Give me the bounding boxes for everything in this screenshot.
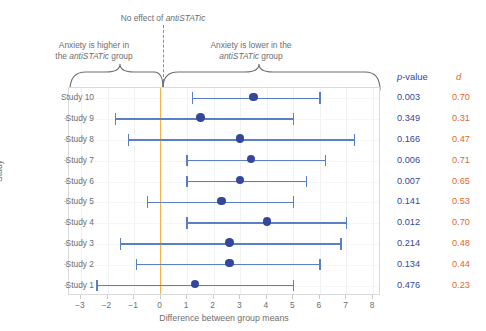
p-value-cell: 0.166 (397, 133, 441, 145)
effect-size-cell: 0.47 (452, 133, 484, 145)
y-tick-mark (64, 181, 68, 182)
x-tick-mark (160, 295, 161, 299)
confidence-interval-cap-high (293, 113, 294, 125)
forest-row (69, 130, 379, 150)
x-tick-mark (213, 295, 214, 299)
forest-row (69, 88, 379, 108)
confidence-interval-line (187, 160, 325, 161)
x-tick-mark (133, 295, 134, 299)
x-tick-mark (292, 295, 293, 299)
y-tick-mark (64, 222, 68, 223)
y-tick-mark (64, 285, 68, 286)
confidence-interval-cap-low (128, 134, 129, 146)
confidence-interval-cap-low (186, 176, 187, 188)
x-tick-mark (345, 295, 346, 299)
confidence-interval-line (187, 181, 306, 182)
x-tick-label: 6 (309, 300, 329, 310)
estimate-point (263, 217, 271, 225)
x-axis-label: Difference between group means (68, 313, 380, 323)
forest-row (69, 276, 379, 294)
effect-size-cell: 0.44 (452, 258, 484, 270)
column-header-d: d (456, 71, 482, 82)
x-tick-mark (107, 295, 108, 299)
confidence-interval-cap-high (306, 176, 307, 188)
x-tick-label: 8 (362, 300, 382, 310)
forest-row (69, 109, 379, 129)
estimate-point (247, 155, 255, 163)
p-value-cell: 0.006 (397, 154, 441, 166)
y-tick-mark (64, 118, 68, 119)
y-tick-label: Study 6 (66, 176, 94, 186)
forest-plot-figure: No effect of antiSTATic Anxiety is highe… (0, 0, 486, 331)
estimate-point (236, 134, 244, 142)
y-tick-mark (64, 201, 68, 202)
effect-size-cell: 0.70 (452, 216, 484, 228)
y-axis-label: Study (0, 160, 4, 182)
y-tick-label: Study 1 (66, 280, 94, 290)
forest-row (69, 255, 379, 275)
y-tick-label: Study 9 (66, 113, 94, 123)
forest-row (69, 172, 379, 192)
y-tick-mark (64, 97, 68, 98)
forest-row (69, 213, 379, 233)
confidence-interval-cap-low (120, 238, 121, 250)
x-tick-label: 2 (203, 300, 223, 310)
p-value-cell: 0.214 (397, 237, 441, 249)
confidence-interval-cap-low (192, 92, 193, 104)
confidence-interval-cap-high (325, 155, 326, 167)
x-tick-label: −3 (70, 300, 90, 310)
estimate-point (217, 197, 225, 205)
x-tick-label: −1 (123, 300, 143, 310)
p-value-cell: 0.476 (397, 279, 441, 291)
annotation-higher-line1: Anxiety is higher in (59, 40, 129, 50)
annotation-no-effect: No effect of antiSTATic (95, 13, 231, 24)
confidence-interval-cap-high (340, 238, 341, 250)
p-value-cell: 0.003 (397, 91, 441, 103)
confidence-interval-cap-low (186, 217, 187, 229)
estimate-point (225, 238, 233, 246)
confidence-interval-cap-low (186, 155, 187, 167)
y-tick-mark (64, 264, 68, 265)
annotation-no-effect-text: No effect of (121, 13, 166, 23)
x-tick-label: −2 (97, 300, 117, 310)
annotation-lower-line1: Anxiety is lower in the (211, 40, 292, 50)
y-tick-mark (64, 160, 68, 161)
confidence-interval-cap-high (346, 217, 347, 229)
y-tick-mark (64, 243, 68, 244)
annotation-no-effect-italic: antiSTATic (166, 13, 206, 23)
confidence-interval-cap-low (115, 113, 116, 125)
x-tick-label: 7 (335, 300, 355, 310)
x-tick-mark (266, 295, 267, 299)
column-header-p-value: p-value (397, 71, 449, 82)
forest-row (69, 151, 379, 171)
x-tick-mark (319, 295, 320, 299)
p-value-cell: 0.012 (397, 216, 441, 228)
x-tick-mark (186, 295, 187, 299)
estimate-point (236, 176, 244, 184)
confidence-interval-cap-high (293, 196, 294, 208)
x-tick-label: 4 (256, 300, 276, 310)
p-value-cell: 0.134 (397, 258, 441, 270)
y-tick-label: Study 2 (66, 259, 94, 269)
p-value-cell: 0.349 (397, 112, 441, 124)
annotation-higher-line2-prefix: the (55, 51, 69, 61)
y-tick-label: Study 3 (66, 238, 94, 248)
y-tick-mark (64, 139, 68, 140)
confidence-interval-cap-low (96, 280, 97, 292)
y-tick-label: Study 7 (66, 155, 94, 165)
confidence-interval-cap-high (319, 259, 320, 271)
plot-inner (69, 88, 379, 294)
estimate-point (196, 113, 204, 121)
annotation-higher-line2-suffix: group (109, 51, 133, 61)
y-tick-label: Study 8 (66, 134, 94, 144)
effect-size-cell: 0.53 (452, 195, 484, 207)
annotation-lower-line2-suffix: group (259, 51, 283, 61)
estimate-point (191, 280, 199, 288)
effect-size-cell: 0.70 (452, 91, 484, 103)
y-tick-label: Study 5 (66, 196, 94, 206)
x-tick-label: 3 (229, 300, 249, 310)
estimate-point (225, 259, 233, 267)
effect-size-cell: 0.48 (452, 237, 484, 249)
p-value-header-rest: -value (402, 71, 428, 82)
y-tick-label: Study 4 (66, 217, 94, 227)
